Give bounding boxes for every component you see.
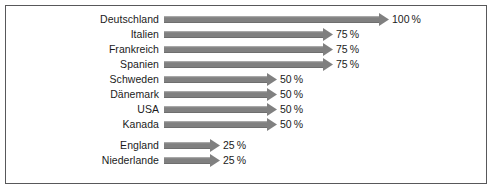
category-label: Kanada: [6, 117, 159, 132]
arrow-head-icon: [210, 154, 220, 167]
value-label: 50 %: [280, 72, 303, 87]
bar-arrow: [164, 73, 277, 86]
bar-container: 25 %: [164, 153, 246, 168]
bar-container: 25 %: [164, 138, 246, 153]
bar-arrow: [164, 103, 277, 116]
value-label: 25 %: [223, 138, 246, 153]
bar-arrow: [164, 43, 333, 56]
value-label: 100 %: [392, 12, 421, 27]
value-label: 75 %: [336, 42, 359, 57]
bar-arrow: [164, 58, 333, 71]
chart-row: Dänemark50 %: [6, 87, 486, 102]
value-label: 75 %: [336, 27, 359, 42]
bar-container: 100 %: [164, 12, 421, 27]
bar-container: 50 %: [164, 117, 303, 132]
chart-row: Schweden50 %: [6, 72, 486, 87]
value-label: 50 %: [280, 102, 303, 117]
value-label: 50 %: [280, 87, 303, 102]
value-label: 50 %: [280, 117, 303, 132]
category-label: Spanien: [6, 57, 159, 72]
arrow-head-icon: [379, 13, 389, 26]
category-label: Frankreich: [6, 42, 159, 57]
chart-row: Deutschland100 %: [6, 12, 486, 27]
category-label: Dänemark: [6, 87, 159, 102]
chart-row: Spanien75 %: [6, 57, 486, 72]
bar-container: 75 %: [164, 57, 359, 72]
chart-row: England25 %: [6, 138, 486, 153]
bar-arrow: [164, 139, 220, 152]
arrow-head-icon: [323, 58, 333, 71]
bar-container: 50 %: [164, 72, 303, 87]
bar-arrow: [164, 154, 220, 167]
chart-row: USA50 %: [6, 102, 486, 117]
bar-arrow: [164, 13, 389, 26]
category-label: Niederlande: [6, 153, 159, 168]
arrow-head-icon: [267, 118, 277, 131]
bar-container: 50 %: [164, 102, 303, 117]
chart-row: Niederlande25 %: [6, 153, 486, 168]
arrow-head-icon: [267, 73, 277, 86]
arrow-head-icon: [267, 88, 277, 101]
bar-chart: Deutschland100 %Italien75 %Frankreich75 …: [6, 6, 486, 183]
bar-container: 75 %: [164, 42, 359, 57]
bar-container: 50 %: [164, 87, 303, 102]
value-label: 75 %: [336, 57, 359, 72]
bar-arrow: [164, 118, 277, 131]
category-label: Deutschland: [6, 12, 159, 27]
arrow-head-icon: [323, 43, 333, 56]
category-label: England: [6, 138, 159, 153]
bar-container: 75 %: [164, 27, 359, 42]
arrow-head-icon: [210, 139, 220, 152]
arrow-head-icon: [323, 28, 333, 41]
category-label: Schweden: [6, 72, 159, 87]
chart-row: Kanada50 %: [6, 117, 486, 132]
value-label: 25 %: [223, 153, 246, 168]
chart-frame: Deutschland100 %Italien75 %Frankreich75 …: [5, 5, 487, 184]
chart-row: Italien75 %: [6, 27, 486, 42]
category-label: USA: [6, 102, 159, 117]
arrow-head-icon: [267, 103, 277, 116]
bar-arrow: [164, 88, 277, 101]
bar-arrow: [164, 28, 333, 41]
chart-row: Frankreich75 %: [6, 42, 486, 57]
category-label: Italien: [6, 27, 159, 42]
